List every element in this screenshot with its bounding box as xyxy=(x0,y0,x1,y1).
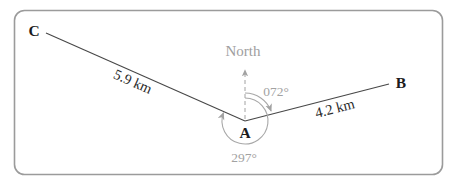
bearing-072-label: 072° xyxy=(263,84,289,99)
point-b-label: B xyxy=(396,74,406,91)
point-c-label: C xyxy=(28,22,39,39)
line-a-to-c xyxy=(46,33,245,121)
distance-ab-label: 4.2 km xyxy=(313,95,357,121)
bearing-diagram: North 072° 297° A B C 5.9 km 4.2 km xyxy=(0,0,457,186)
bearing-297-label: 297° xyxy=(231,150,257,165)
point-a-label: A xyxy=(239,124,251,141)
north-label: North xyxy=(226,43,261,59)
bearing-diagram-svg: North 072° 297° A B C 5.9 km 4.2 km xyxy=(0,0,457,186)
frame-border xyxy=(15,11,443,175)
distance-ac-label: 5.9 km xyxy=(111,66,155,97)
